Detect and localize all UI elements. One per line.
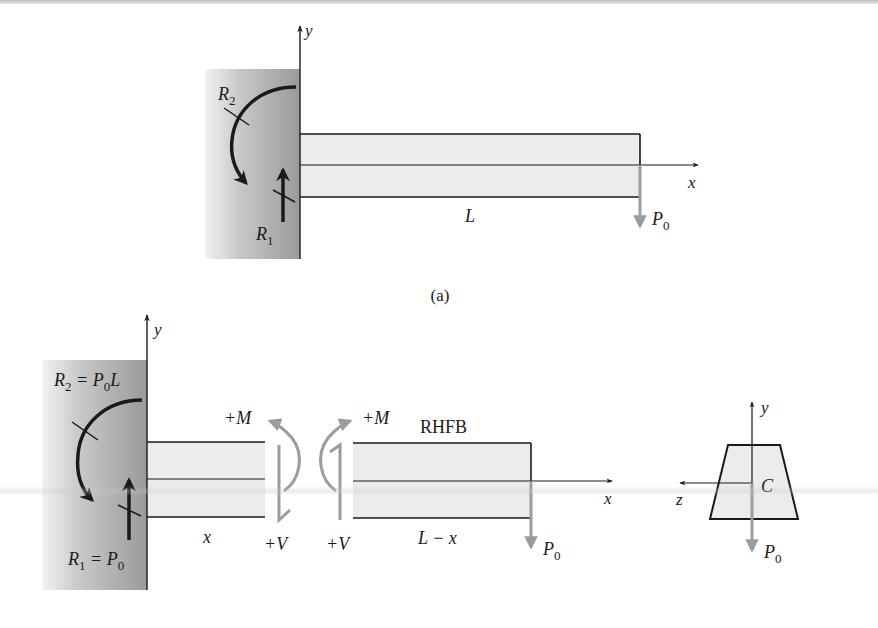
load-label: P0 [651, 209, 670, 233]
moment-left-label: +M [224, 408, 252, 428]
figure-a: y x R2 R1 L P0 (a) [205, 21, 698, 305]
y-axis-label: y [759, 398, 769, 417]
left-segment-length-label: x [202, 527, 211, 547]
scan-artifact-band [0, 486, 878, 496]
free-body-label: RHFB [420, 417, 467, 437]
moment-left-arrow-icon [270, 421, 299, 491]
moment-right-arrow-icon [321, 421, 350, 491]
cantilever-beam-diagram: y x R2 R1 L P0 (a) [0, 0, 878, 628]
length-label: L [464, 206, 475, 226]
shear-left-label: +V [264, 534, 289, 554]
x-axis-label: x [687, 173, 696, 192]
trapezoid-section [710, 445, 798, 519]
shear-right-label: +V [326, 534, 351, 554]
right-segment-length-label: L − x [417, 528, 457, 548]
load-label: P0 [763, 542, 782, 566]
figure-a-caption: (a) [431, 286, 450, 305]
y-axis-label: y [152, 320, 162, 339]
figure-b: y x R2 = P0L R1 = P0 x L − x +M +M +V +V… [42, 315, 612, 590]
shear-right-arrow-icon [330, 445, 340, 520]
moment-right-label: +M [362, 408, 390, 428]
y-axis-label: y [303, 21, 313, 40]
shear-left-arrow-icon [279, 445, 290, 520]
load-label: P0 [542, 539, 561, 563]
cross-section: y z C P0 [675, 398, 798, 566]
